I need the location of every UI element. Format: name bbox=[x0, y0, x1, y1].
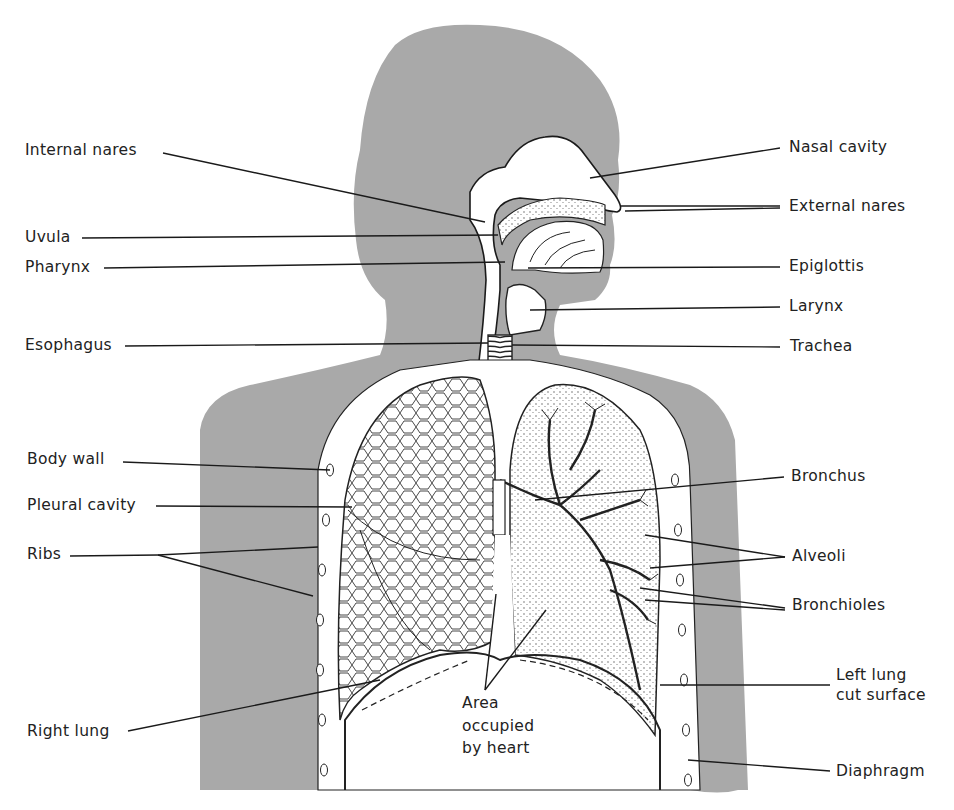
label-pleural-cavity: Pleural cavity bbox=[27, 496, 136, 515]
label-esophagus: Esophagus bbox=[25, 336, 112, 355]
label-diaphragm: Diaphragm bbox=[836, 762, 925, 781]
label-right-lung: Right lung bbox=[27, 722, 110, 741]
label-internal-nares: Internal nares bbox=[25, 141, 137, 160]
label-body-wall: Body wall bbox=[27, 450, 105, 469]
label-left-lung-cut-surface-line2: cut surface bbox=[836, 686, 926, 705]
label-larynx: Larynx bbox=[789, 297, 843, 316]
label-ribs: Ribs bbox=[27, 545, 61, 564]
label-nasal-cavity: Nasal cavity bbox=[789, 138, 887, 157]
label-uvula: Uvula bbox=[25, 228, 71, 247]
label-external-nares: External nares bbox=[789, 197, 905, 216]
label-heart-area-line3: by heart bbox=[462, 739, 530, 758]
label-bronchioles: Bronchioles bbox=[792, 596, 885, 615]
label-heart-area-line1: Area bbox=[462, 694, 499, 713]
label-epiglottis: Epiglottis bbox=[789, 257, 864, 276]
label-trachea: Trachea bbox=[790, 337, 853, 356]
label-heart-area-line2: occupied bbox=[462, 717, 534, 736]
label-alveoli: Alveoli bbox=[792, 547, 846, 566]
bronchus-tube bbox=[493, 480, 505, 535]
label-left-lung-cut-surface-line1: Left lung bbox=[836, 666, 907, 685]
label-pharynx: Pharynx bbox=[25, 258, 90, 277]
label-bronchus: Bronchus bbox=[791, 467, 866, 486]
respiratory-diagram bbox=[0, 0, 954, 810]
